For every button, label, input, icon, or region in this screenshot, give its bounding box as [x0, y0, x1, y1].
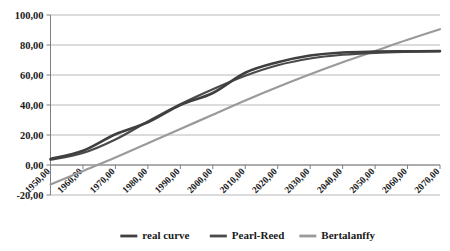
y-tick-label: 60,00 — [20, 70, 44, 81]
chart-container: -20,000,0020,0040,0060,0080,00100,00 195… — [0, 0, 450, 251]
x-tick-label: 2000,00 — [185, 166, 214, 195]
y-tick-label: 80,00 — [20, 40, 44, 51]
y-tick-label: 100,00 — [15, 10, 44, 21]
x-tick-label: 2010,00 — [218, 166, 247, 195]
y-tick-label: 40,00 — [20, 100, 44, 111]
x-tick-label: 2020,00 — [250, 166, 279, 195]
x-tick-label: 2070,00 — [413, 166, 442, 195]
legend-label: Pearl-Reed — [232, 229, 285, 241]
x-tick-label: 2040,00 — [315, 166, 344, 195]
y-tick-label: 0,00 — [25, 160, 43, 171]
legend-label: real curve — [142, 229, 189, 241]
x-tick-label: 1980,00 — [120, 166, 149, 195]
y-tick-label: 20,00 — [20, 130, 44, 141]
x-tick-label: 2050,00 — [348, 166, 377, 195]
x-tick-label: 2060,00 — [380, 166, 409, 195]
x-tick-label: 2030,00 — [283, 166, 312, 195]
data-series — [51, 29, 441, 184]
series-line-pearl-reed — [51, 51, 441, 159]
y-axis — [47, 15, 51, 195]
x-tick-label: 1970,00 — [88, 166, 117, 195]
line-chart: -20,000,0020,0040,0060,0080,00100,00 195… — [0, 0, 450, 251]
chart-legend: real curvePearl-ReedBertalanffy — [120, 229, 375, 241]
legend-label: Bertalanffy — [321, 229, 375, 241]
x-tick-label: 1990,00 — [153, 166, 182, 195]
